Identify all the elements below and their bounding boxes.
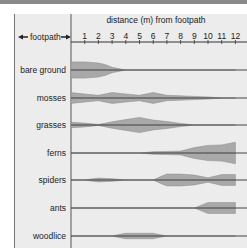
x-tick-label: 5 [137,31,142,41]
row-label: bare ground [20,65,66,75]
x-tick-label: 3 [110,31,115,41]
kite-row: woodlice [32,231,247,241]
x-tick-label: 1 [82,31,87,41]
x-tick-label: 10 [203,31,213,41]
footpath-label-group: footpath [18,32,71,42]
row-label: woodlice [32,231,66,241]
x-tick-label: 12 [231,31,241,41]
arrow-right-icon [61,35,71,40]
kite-diagram: distance (m) from footpath footpath 1234… [0,0,247,248]
row-label: ants [50,203,66,213]
row-label: mosses [37,93,66,103]
x-tick-label: 8 [178,31,183,41]
x-tick-label: 11 [217,31,226,41]
kite-row: mosses [37,93,247,104]
kite-row: spiders [39,174,247,186]
x-tick-label: 4 [123,31,128,41]
row-label: spiders [39,175,66,185]
kite-row: ants [50,203,247,214]
x-tick-label: 2 [96,31,101,41]
x-tick-label: 6 [151,31,156,41]
x-tick-label: 9 [192,31,197,41]
kite-row: bare ground [20,62,247,78]
x-tick-label: 7 [165,31,170,41]
kite-row: grasses [36,117,247,132]
row-label: ferns [47,148,66,158]
row-label: grasses [36,120,66,130]
kite-row: ferns [47,142,247,164]
x-axis-label: distance (m) from footpath [106,15,205,25]
arrow-left-icon [18,35,28,40]
footpath-label: footpath [30,32,61,42]
